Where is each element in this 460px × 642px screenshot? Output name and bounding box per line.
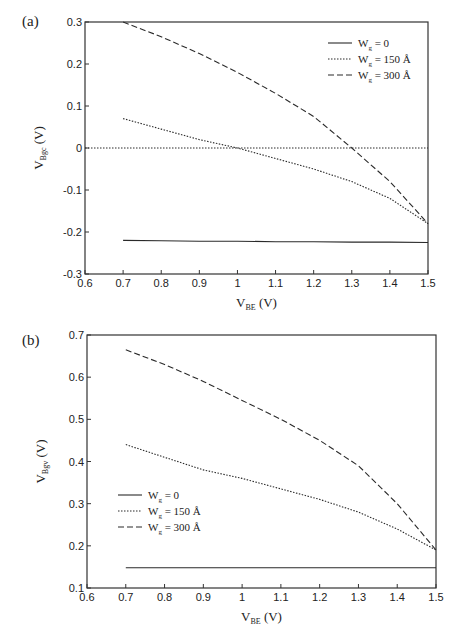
x-tick-label: 0.8: [157, 591, 172, 603]
x-tick-label: 1.4: [390, 591, 405, 603]
y-tick-label: 0.7: [69, 329, 84, 341]
x-tick-label: 1.1: [273, 591, 288, 603]
x-tick-label: 1.5: [428, 591, 443, 603]
x-tick-label: 1: [239, 591, 245, 603]
legend-label-1: Wg = 150 Å: [148, 505, 201, 520]
series-line-2: [126, 350, 436, 550]
y-tick-label: 0.5: [69, 413, 84, 425]
chart-b: 0.60.70.80.911.11.21.31.41.50.10.20.30.4…: [0, 0, 460, 642]
legend: Wg = 0Wg = 150 ÅWg = 300 Å: [118, 489, 201, 536]
y-tick-label: 0.4: [69, 456, 84, 468]
y-tick-label: 0.6: [69, 371, 84, 383]
y-tick-label: 0.1: [69, 582, 84, 594]
plot-frame: [87, 335, 436, 588]
legend-label-2: Wg = 300 Å: [148, 521, 201, 536]
x-tick-label: 1.3: [351, 591, 366, 603]
y-axis-title: VBgv (V): [33, 439, 50, 483]
y-tick-label: 0.2: [69, 540, 84, 552]
y-tick-label: 0.3: [69, 498, 84, 510]
x-axis-title: VBE (V): [241, 609, 282, 626]
legend-label-0: Wg = 0: [148, 489, 180, 504]
x-tick-label: 0.9: [196, 591, 211, 603]
x-tick-label: 1.2: [312, 591, 327, 603]
x-tick-label: 0.7: [118, 591, 133, 603]
